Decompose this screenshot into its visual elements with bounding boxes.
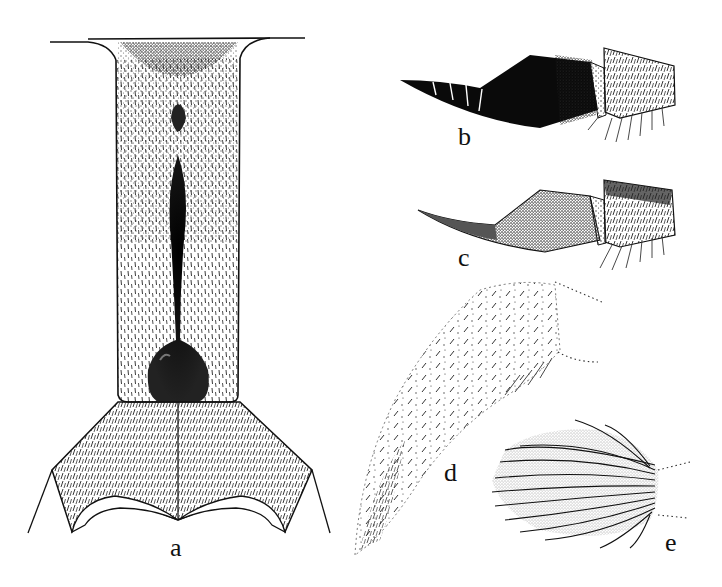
panel-c-drawing (418, 180, 675, 270)
panel-label-a: a (170, 535, 182, 561)
panel-label-d: d (444, 460, 457, 486)
panel-e-drawing (492, 420, 690, 548)
illustration-figure: a b c d e (0, 0, 722, 587)
panel-b-drawing (400, 48, 675, 142)
panel-label-c: c (458, 245, 470, 271)
panel-label-e: e (665, 530, 677, 556)
illustration-drawing (0, 0, 722, 587)
panel-a-drawing (28, 38, 330, 533)
panel-label-b: b (458, 124, 471, 150)
